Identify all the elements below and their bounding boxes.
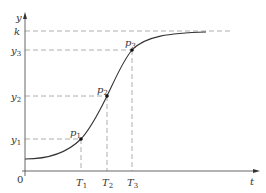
y2-label-sub: 2 xyxy=(17,96,21,104)
y-axis-arrow-icon xyxy=(23,12,27,19)
x-axis-label: t xyxy=(250,176,255,187)
y3-label: y3 xyxy=(10,45,21,58)
p1-label-sub: 1 xyxy=(76,132,80,140)
origin-label: 0 xyxy=(17,174,23,185)
p2-label-sub: 2 xyxy=(103,89,107,97)
k-label: k xyxy=(14,26,20,37)
t3-label-sub: 3 xyxy=(134,182,138,190)
y1-label: y1 xyxy=(10,134,21,147)
p3-label-sub: 3 xyxy=(131,42,135,50)
t2-label-sub: 2 xyxy=(109,182,113,190)
t2-label: T2 xyxy=(102,177,113,190)
x-axis-arrow-icon xyxy=(253,169,260,173)
p3-label: p3 xyxy=(125,37,136,50)
t1-label: T1 xyxy=(76,177,87,190)
p2-label: p2 xyxy=(97,84,108,97)
y1-label-sub: 1 xyxy=(17,139,21,147)
y-axis-label: y xyxy=(15,12,22,23)
t3-label: T3 xyxy=(127,177,138,190)
t1-label-sub: 1 xyxy=(83,182,87,190)
y2-label: y2 xyxy=(10,91,21,104)
logistic-curve-diagram: y t 0 k y3 y2 y1 T1 T2 T3 p1 p2 p3 xyxy=(0,0,266,193)
guide-lines xyxy=(25,31,232,171)
p1-label: p1 xyxy=(70,127,81,140)
y3-label-sub: 3 xyxy=(17,50,21,58)
logistic-curve xyxy=(25,32,206,159)
